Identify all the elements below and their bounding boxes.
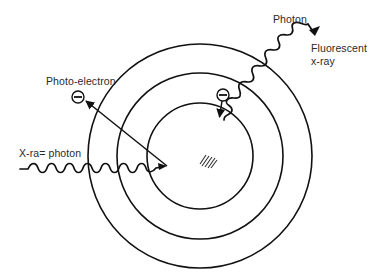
nucleus-hatch-icon [200, 155, 217, 168]
photo-electron-ejection-arrow [86, 101, 167, 166]
inner-shell [147, 103, 253, 209]
xray-photon-label: X-ra= photon [19, 147, 81, 159]
electron-transition-arrow [220, 101, 223, 117]
incident-xray-wave [20, 164, 162, 173]
middle-shell [117, 73, 283, 239]
fluorescent-xray-label-line1: Fluorescent [311, 42, 367, 54]
fluorescent-xray-label-line2: x-ray [311, 55, 335, 67]
photo-electron-label: Photo-electron [46, 75, 116, 87]
photon-label: Photon [273, 13, 307, 25]
fluorescent-xray-wave [224, 22, 312, 120]
outer-shell [88, 44, 312, 268]
photo-electron-minus-icon [72, 91, 84, 103]
atom-shells [88, 44, 312, 268]
